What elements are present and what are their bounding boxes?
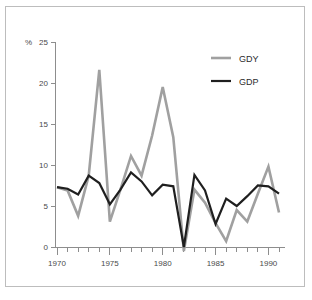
line-chart-plot: 0510152025% 19701975198019851990 GDYGDP (0, 0, 312, 300)
series-line-gdp (57, 172, 279, 247)
data-series-group (57, 70, 279, 251)
legend-label-gdp: GDP (239, 77, 259, 87)
x-tick-label: 1970 (48, 259, 66, 268)
x-tick-label: 1975 (101, 259, 119, 268)
y-tick-label: 10 (39, 161, 48, 170)
y-tick-label: 25 (39, 38, 48, 47)
y-tick-label: 15 (39, 120, 48, 129)
y-axis: 0510152025% (25, 38, 55, 252)
chart-figure: 0510152025% 19701975198019851990 GDYGDP (0, 0, 312, 300)
legend-label-gdy: GDY (239, 54, 259, 64)
y-tick-label: 0 (44, 243, 49, 252)
x-tick-label: 1985 (207, 259, 225, 268)
y-tick-label: 5 (44, 202, 49, 211)
x-tick-label: 1990 (260, 259, 278, 268)
x-axis: 19701975198019851990 (48, 247, 285, 268)
y-tick-label: 20 (39, 79, 48, 88)
series-line-gdy (57, 70, 279, 251)
chart-legend: GDYGDP (211, 54, 259, 87)
y-axis-unit-label: % (25, 38, 32, 47)
x-tick-label: 1980 (154, 259, 172, 268)
